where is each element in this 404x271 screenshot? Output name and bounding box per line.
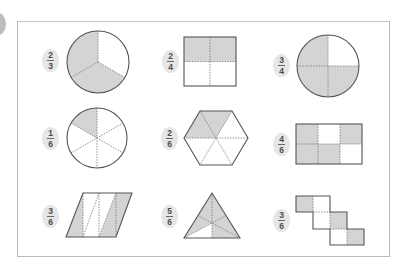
fraction-shapes xyxy=(0,0,404,271)
fraction-label-8: 56 xyxy=(161,205,178,228)
shape-6-shaded-d xyxy=(318,144,340,164)
fraction-label-2: 24 xyxy=(162,50,179,73)
numerator: 5 xyxy=(167,207,172,215)
shape-9-shaded-c xyxy=(347,229,364,245)
shape-7-shaded-b xyxy=(99,193,116,237)
denominator: 6 xyxy=(48,140,53,148)
numerator: 2 xyxy=(167,129,172,137)
shape-5-shaded xyxy=(184,111,232,138)
numerator: 2 xyxy=(48,51,53,59)
denominator: 6 xyxy=(48,218,53,226)
shape-6-shaded-b xyxy=(340,124,362,144)
denominator: 4 xyxy=(279,67,284,75)
denominator: 6 xyxy=(167,218,172,226)
fraction-label-9: 36 xyxy=(273,209,290,232)
fraction-label-4: 16 xyxy=(42,127,59,150)
fraction-label-6: 46 xyxy=(273,133,290,156)
fraction-label-7: 36 xyxy=(42,205,59,228)
denominator: 3 xyxy=(48,62,53,70)
fraction-label-5: 26 xyxy=(161,127,178,150)
denominator: 6 xyxy=(279,146,284,154)
denominator: 6 xyxy=(279,222,284,230)
shape-6-shaded-c xyxy=(296,144,318,164)
shape-6-shaded-a xyxy=(296,124,318,144)
fraction-label-1: 23 xyxy=(42,49,59,72)
denominator: 4 xyxy=(168,63,173,71)
numerator: 4 xyxy=(279,135,284,143)
fraction-label-3: 34 xyxy=(273,54,290,77)
numerator: 3 xyxy=(279,56,284,64)
denominator: 6 xyxy=(167,140,172,148)
numerator: 3 xyxy=(48,207,53,215)
shape-9-shaded-b xyxy=(330,212,347,229)
shape-4-shaded xyxy=(71,108,97,138)
shape-9-shaded-a xyxy=(296,196,313,212)
numerator: 1 xyxy=(48,129,53,137)
numerator: 2 xyxy=(168,52,173,60)
numerator: 3 xyxy=(279,211,284,219)
